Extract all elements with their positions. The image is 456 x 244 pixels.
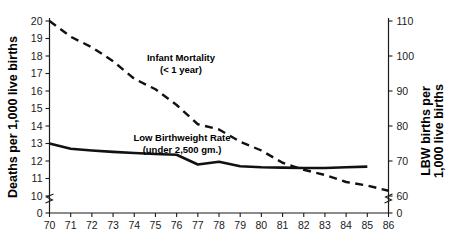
left-tick-label: 18: [31, 50, 43, 62]
data-series-group: [50, 21, 389, 191]
annotation-low-birthweight-line1: Low Birthweight Rate: [133, 132, 230, 143]
left-tick-label: 17: [31, 67, 43, 79]
left-tick-label: 11: [32, 172, 43, 184]
right-axis-break-icon: [385, 194, 393, 203]
right-axis-title-group: LBW births per1,000 live births: [419, 84, 446, 178]
right-tick-label: 90: [397, 85, 409, 97]
x-tick-label: 71: [65, 219, 77, 231]
left-axis-ticks: 01011121314151617181920: [31, 15, 50, 219]
left-axis-title: Deaths per 1,000 live births: [6, 36, 20, 198]
x-axis-ticks: 7071727374757677787980818283848586: [44, 213, 395, 231]
left-axis-title-group: Deaths per 1,000 live births: [6, 36, 20, 198]
x-tick-label: 75: [150, 219, 162, 231]
right-axis-title-line-1: LBW births per: [419, 86, 433, 176]
x-tick-label: 86: [383, 219, 395, 231]
left-tick-label: 10: [31, 190, 43, 202]
x-tick-label: 83: [319, 219, 331, 231]
left-tick-label: 20: [31, 15, 43, 27]
line-chart-canvas: Deaths per 1,000 live births LBW births …: [0, 0, 456, 244]
annotation-low-birthweight-line2: (under 2,500 gm.): [143, 144, 222, 155]
left-tick-label: 16: [31, 85, 43, 97]
x-tick-label: 82: [298, 219, 310, 231]
x-tick-label: 85: [361, 219, 373, 231]
left-axis-break-icon: [46, 194, 54, 203]
left-tick-label: 15: [31, 102, 43, 114]
x-tick-label: 81: [277, 219, 289, 231]
x-tick-label: 72: [86, 219, 98, 231]
right-tick-label: 60: [397, 190, 409, 202]
x-tick-label: 70: [44, 219, 56, 231]
x-tick-label: 73: [107, 219, 119, 231]
axis-break-marks: [46, 194, 393, 203]
right-axis-ticks: 060708090100110: [389, 15, 415, 219]
x-tick-label: 76: [171, 219, 183, 231]
right-axis-title-line-2: 1,000 live births: [432, 84, 446, 178]
left-tick-label: 0: [37, 207, 43, 219]
right-tick-label: 0: [397, 207, 403, 219]
left-tick-label: 12: [31, 155, 43, 167]
chart-figure: Deaths per 1,000 live births LBW births …: [0, 0, 456, 244]
series-line-infant-mortality: [50, 21, 389, 191]
x-tick-label: 79: [234, 219, 246, 231]
axis-lines: [50, 18, 389, 213]
left-tick-label: 14: [31, 120, 43, 132]
series-annotations: Infant Mortality(< 1 year)Low Birthweigh…: [133, 52, 230, 155]
left-tick-label: 19: [31, 32, 43, 44]
right-tick-label: 110: [397, 15, 414, 27]
x-tick-label: 77: [192, 219, 204, 231]
x-tick-label: 80: [256, 219, 268, 231]
annotation-infant-mortality-line1: Infant Mortality: [147, 52, 216, 63]
left-tick-label: 13: [31, 137, 43, 149]
x-tick-label: 84: [340, 219, 352, 231]
annotation-infant-mortality-line2: (< 1 year): [160, 64, 202, 75]
right-tick-label: 80: [397, 120, 409, 132]
right-tick-label: 70: [397, 155, 409, 167]
x-tick-label: 78: [213, 219, 225, 231]
right-tick-label: 100: [397, 50, 415, 62]
x-tick-label: 74: [128, 219, 140, 231]
